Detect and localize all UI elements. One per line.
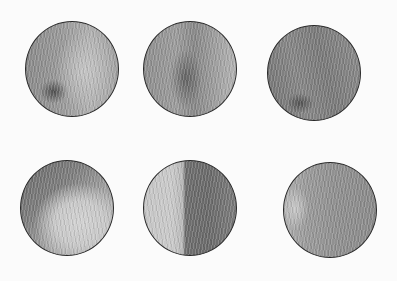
drawing-canvas	[0, 0, 397, 281]
disk-bottom-middle	[143, 160, 237, 256]
disk-bottom-left	[20, 160, 114, 256]
disk-bottom-right	[283, 162, 377, 258]
disk-top-right	[267, 25, 361, 121]
disk-top-left	[25, 21, 119, 117]
disk-top-middle	[143, 21, 237, 117]
